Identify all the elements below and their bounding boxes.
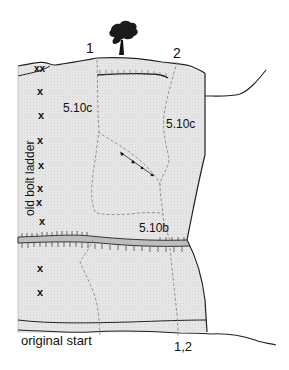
bolt-ladder-label: old bolt ladder — [23, 141, 37, 216]
bolt-4-icon — [151, 174, 154, 177]
bolt-ladder-marker: x — [37, 85, 44, 97]
rock-face — [18, 58, 207, 333]
route-1-number: 1 — [86, 40, 94, 56]
anchor-marker: xx — [34, 63, 46, 74]
grade-upper-left: 5.10c — [63, 101, 92, 115]
bolt-1-icon — [121, 153, 124, 156]
route-2-number: 2 — [173, 45, 181, 61]
bolt-ladder-marker: x — [37, 286, 44, 298]
bolt-3-icon — [141, 167, 144, 170]
bolt-ladder-marker: x — [38, 109, 45, 121]
bolt-ladder-marker: x — [38, 159, 45, 171]
topo-diagram: xx x x x x x x x x x old bolt ladder 1 2… — [0, 0, 289, 370]
ground-right — [205, 70, 266, 96]
bolt-ladder-marker: x — [37, 262, 44, 274]
start-route-numbers: 1,2 — [174, 339, 192, 354]
bolt-ladder-marker: x — [39, 215, 46, 227]
bolt-ladder-marker: x — [37, 182, 44, 194]
bolt-2-icon — [132, 161, 135, 164]
grade-upper-right: 5.10c — [166, 117, 195, 131]
bolt-ladder-marker: x — [37, 134, 44, 146]
bolt-ladder-marker: x — [36, 196, 43, 208]
tree-icon — [109, 21, 137, 55]
original-start-label: original start — [21, 333, 92, 348]
grade-lower-ledge: 5.10b — [139, 221, 169, 235]
